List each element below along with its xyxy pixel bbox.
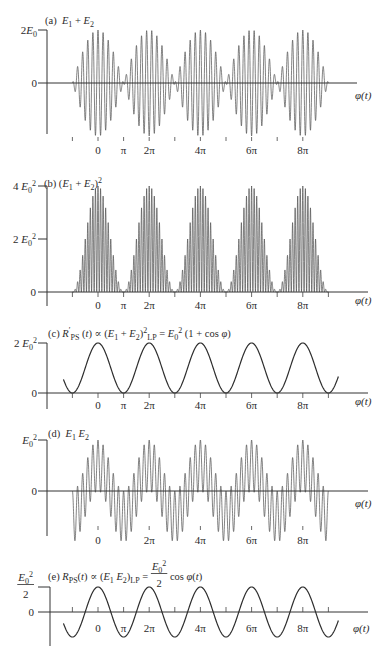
y-tick-label-text: 2 E02 <box>14 336 37 352</box>
panel-title-group: (e) RPS(t) ∝ (E1 E2)LP = E022 cos φ(t) <box>48 559 203 589</box>
text-segment: (1 + cos <box>182 328 221 340</box>
x-axis-label: φ(t) <box>355 497 372 510</box>
panel-title-text: cos φ(t) <box>167 571 202 583</box>
text-segment: (b) ( <box>44 178 63 190</box>
x-tick-label: 2π <box>144 299 156 311</box>
y-tick-label-text: 2E0 <box>21 24 37 39</box>
x-axis-label: φ(t) <box>355 89 372 102</box>
x-tick-label: 8π <box>297 622 309 634</box>
text-segment: (a) <box>45 15 62 27</box>
panel-title: (d) E1 E2 <box>48 428 89 442</box>
x-tick-label: 2π <box>144 144 156 156</box>
text-segment: ) ∝ ( <box>84 571 104 583</box>
x-tick-label: 4π <box>195 399 207 411</box>
y-tick-label: 0 <box>32 485 38 497</box>
text-segment: PS <box>69 576 78 585</box>
x-tick-label: π <box>121 399 127 411</box>
series-e1-e2 <box>72 440 328 541</box>
text-segment: 2 <box>162 559 166 568</box>
text-segment: 2 <box>33 433 37 442</box>
x-axis-label: φ(t) <box>355 395 372 408</box>
text-segment: 0 <box>32 77 38 89</box>
panel-title-group: (b) (E1 + E2)2 <box>44 176 102 192</box>
text-segment: 2 <box>33 336 37 345</box>
y-tick-label: 2 E02 <box>14 336 37 352</box>
figure-canvas: 2E000π2π4π6π8πφ(t)(a) E1 + E24 E022 E020… <box>0 0 387 653</box>
text-segment: 0 <box>33 30 37 39</box>
x-tick-label: 4π <box>195 622 207 634</box>
x-tick-label: 0 <box>95 534 101 546</box>
fraction-numerator: E02 <box>151 559 166 575</box>
x-tick-label: π <box>121 622 127 634</box>
x-axis-label: φ(t) <box>355 294 372 307</box>
panel-title: (a) E1 + E2 <box>45 15 94 29</box>
text-segment: (e) <box>48 571 62 583</box>
y-tick-label-text: 0 <box>32 485 38 497</box>
text-segment: + <box>73 178 84 189</box>
text-segment: 2 <box>14 337 22 349</box>
text-segment: ) <box>199 571 203 583</box>
y-tick-label-text: 0 <box>29 606 35 618</box>
y-tick-label: 4 E02 <box>13 179 36 195</box>
x-tick-label: 0 <box>95 622 101 634</box>
x-tick-label: 2π <box>144 622 156 634</box>
text-segment: 2 <box>90 20 94 29</box>
y-tick-label: 0 <box>29 606 35 618</box>
panel-title-text: (a) E1 + E2 <box>45 15 94 29</box>
y-tick-label-text: 0 <box>32 387 38 399</box>
text-segment: PS <box>70 333 79 342</box>
fraction-numerator: E02 <box>17 570 33 586</box>
x-tick-label: 8π <box>297 144 309 156</box>
x-tick-label: π <box>121 299 127 311</box>
panel-c: 2 E0200π2π4π6π8πφ(t)(c) R′PS (t) ∝ (E1 +… <box>14 326 372 411</box>
x-tick-label: π <box>121 144 127 156</box>
panel-d: E02002π4π6π8πφ(t)(d) E1 E2 <box>21 428 372 546</box>
x-tick-label: 6π <box>246 399 258 411</box>
panel-title: (b) (E1 + E2)2 <box>44 176 102 192</box>
x-tick-label: 2π <box>144 534 156 546</box>
text-segment: 2 <box>32 232 36 241</box>
x-tick-label: 0 <box>95 299 101 311</box>
text-segment: 2 <box>32 179 36 188</box>
x-tick-label: 0 <box>95 144 101 156</box>
y-tick-label: E02 <box>21 433 37 449</box>
x-tick-label: 4π <box>195 144 207 156</box>
x-axis-label: φ(t) <box>353 622 370 635</box>
x-tick-label: 6π <box>246 144 258 156</box>
text-segment: 2 <box>13 233 21 245</box>
panel-title: (c) R′PS (t) ∝ (E1 + E2)2LP = E02 (1 + c… <box>48 326 231 342</box>
panel-title-group: (a) E1 + E2 <box>45 15 94 29</box>
x-tick-label: 6π <box>246 299 258 311</box>
panel-b: 4 E022 E0200π2π4π6π8πφ(t)(b) (E1 + E2)2 <box>13 176 372 311</box>
y-tick-label-text: 4 E02 <box>13 179 36 195</box>
y-tick-label-text: E02 <box>21 433 37 449</box>
text-segment: ) ∝ ( <box>88 328 108 340</box>
text-segment: 0 <box>32 387 38 399</box>
series-r-ps-t <box>63 343 338 393</box>
x-tick-label: 0 <box>95 399 101 411</box>
text-segment: cos <box>167 571 186 582</box>
text-segment: 0 <box>31 286 37 298</box>
y-tick-label: 0 <box>32 387 38 399</box>
text-segment: (c) <box>48 328 62 340</box>
text-segment: 0 <box>29 606 35 618</box>
series-e1-e2-2 <box>72 186 328 292</box>
y-tick-label-text: 0 <box>31 286 37 298</box>
text-segment: = <box>140 571 151 582</box>
x-tick-label: 8π <box>297 399 309 411</box>
panel-title: (e) RPS(t) ∝ (E1 E2)LP = E022 cos φ(t) <box>48 559 203 589</box>
text-segment: = <box>157 328 168 339</box>
text-segment: + <box>72 15 83 26</box>
x-tick-label: 8π <box>297 534 309 546</box>
x-tick-label: 4π <box>195 534 207 546</box>
y-tick-label-text: 2 E02 <box>13 232 36 248</box>
text-segment: 4 <box>13 180 21 192</box>
fraction-denominator: 2 <box>156 578 161 589</box>
panel-title-group: (c) R′PS (t) ∝ (E1 + E2)2LP = E02 (1 + c… <box>48 326 231 342</box>
panel-e: E02200π2π4π6π8πφ(t)(e) RPS(t) ∝ (E1 E2)L… <box>17 559 370 646</box>
panel-title-text: (d) E1 E2 <box>48 428 89 442</box>
panel-title-text: (e) RPS(t) ∝ (E1 E2)LP = <box>48 571 151 585</box>
panel-title-text: (c) R′PS (t) ∝ (E1 + E2)2LP = E02 (1 + c… <box>48 326 231 342</box>
panel-a: 2E000π2π4π6π8πφ(t)(a) E1 + E2 <box>21 15 372 156</box>
text-segment: 2 <box>23 588 29 600</box>
